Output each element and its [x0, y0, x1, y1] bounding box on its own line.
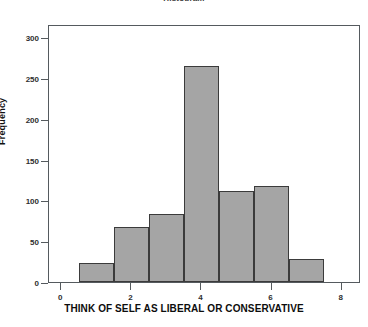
y-tick — [41, 201, 48, 202]
y-axis-title: Frequency — [0, 98, 7, 145]
plot-area — [48, 25, 360, 283]
x-tick — [60, 283, 61, 290]
y-tick — [41, 161, 48, 162]
x-tick — [341, 283, 342, 290]
x-axis-title: THINK OF SELF AS LIBERAL OR CONSERVATIVE — [0, 303, 368, 314]
y-tick — [41, 38, 48, 39]
histogram-bar — [184, 66, 219, 282]
x-tick-label: 0 — [58, 293, 62, 302]
y-tick-label: 250 — [26, 74, 39, 83]
histogram-bar — [114, 227, 149, 282]
x-tick-label: 4 — [198, 293, 202, 302]
y-tick — [41, 79, 48, 80]
y-tick — [41, 242, 48, 243]
histogram-bar — [219, 191, 254, 282]
bar-group — [49, 26, 359, 282]
x-tick — [271, 283, 272, 290]
x-tick-label: 8 — [338, 293, 342, 302]
x-tick-label: 2 — [128, 293, 132, 302]
y-tick-label: 0 — [35, 279, 39, 288]
y-tick-label: 100 — [26, 197, 39, 206]
y-tick-label: 200 — [26, 115, 39, 124]
histogram-bar — [254, 186, 289, 282]
y-axis: Frequency 050100150200250300 — [0, 25, 48, 284]
y-tick — [41, 283, 48, 284]
histogram-chart: Histogram Frequency 050100150200250300 0… — [0, 0, 368, 327]
histogram-bar — [149, 214, 184, 282]
histogram-bar — [79, 263, 114, 282]
y-tick-label: 300 — [26, 34, 39, 43]
x-tick — [200, 283, 201, 290]
y-tick-label: 150 — [26, 156, 39, 165]
x-tick-label: 6 — [268, 293, 272, 302]
chart-title: Histogram — [0, 0, 368, 1]
y-tick — [41, 120, 48, 121]
x-tick — [130, 283, 131, 290]
histogram-bar — [289, 259, 324, 282]
y-tick-label: 50 — [30, 238, 39, 247]
